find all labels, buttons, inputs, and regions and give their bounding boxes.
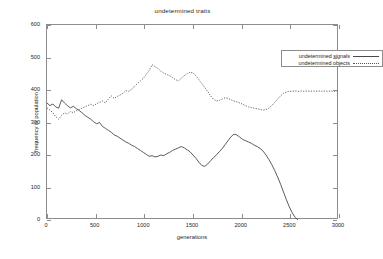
- x-tick-mark: [339, 25, 340, 29]
- x-tick-mark: [242, 25, 243, 29]
- legend-item-objects: undetermined objects: [282, 60, 379, 67]
- y-tick-mark: [333, 90, 337, 91]
- x-tick-mark: [290, 25, 291, 29]
- x-tick-label: 2500: [283, 222, 295, 228]
- x-tick-label: 0: [44, 222, 47, 228]
- y-tick-label: 100: [0, 184, 40, 190]
- series-line-undetermined-signals: [47, 100, 298, 220]
- x-tick-mark: [47, 25, 48, 29]
- x-tick-label: 1000: [137, 222, 149, 228]
- y-tick-mark: [47, 123, 51, 124]
- y-tick-label: 600: [0, 21, 40, 27]
- x-tick-mark: [144, 214, 145, 218]
- y-tick-mark: [333, 58, 337, 59]
- x-tick-mark: [193, 25, 194, 29]
- y-tick-mark: [333, 25, 337, 26]
- legend-key-solid: [353, 54, 379, 59]
- y-tick-mark: [333, 123, 337, 124]
- x-tick-mark: [47, 214, 48, 218]
- y-tick-label: 500: [0, 54, 40, 60]
- x-tick-mark: [193, 214, 194, 218]
- y-tick-mark: [333, 220, 337, 221]
- y-tick-mark: [333, 188, 337, 189]
- plot-area: undetermined signals undetermined object…: [46, 24, 338, 219]
- chart-title: undetermined traits: [0, 7, 365, 14]
- y-tick-mark: [47, 90, 51, 91]
- legend-label-signals: undetermined signals: [299, 53, 350, 59]
- x-tick-mark: [96, 214, 97, 218]
- y-tick-mark: [47, 220, 51, 221]
- x-axis-title: generations: [46, 234, 338, 240]
- x-tick-mark: [242, 214, 243, 218]
- chart-legend: undetermined signals undetermined object…: [281, 50, 383, 67]
- y-tick-mark: [333, 155, 337, 156]
- y-tick-mark: [47, 155, 51, 156]
- x-tick-mark: [290, 214, 291, 218]
- x-tick-label: 2000: [234, 222, 246, 228]
- legend-key-dotted: [353, 60, 379, 65]
- x-tick-label: 1500: [186, 222, 198, 228]
- y-tick-mark: [47, 58, 51, 59]
- series-line-undetermined-objects: [47, 65, 339, 120]
- y-tick-label: 0: [0, 216, 40, 222]
- legend-label-objects: undetermined objects: [298, 60, 350, 66]
- y-tick-mark: [47, 188, 51, 189]
- x-tick-mark: [96, 25, 97, 29]
- y-axis-title-holder: frequency in population: [22, 24, 23, 219]
- x-tick-mark: [144, 25, 145, 29]
- x-tick-mark: [339, 214, 340, 218]
- x-tick-label: 500: [90, 222, 99, 228]
- y-axis-title: frequency in population: [33, 67, 39, 177]
- x-tick-label: 3000: [332, 222, 344, 228]
